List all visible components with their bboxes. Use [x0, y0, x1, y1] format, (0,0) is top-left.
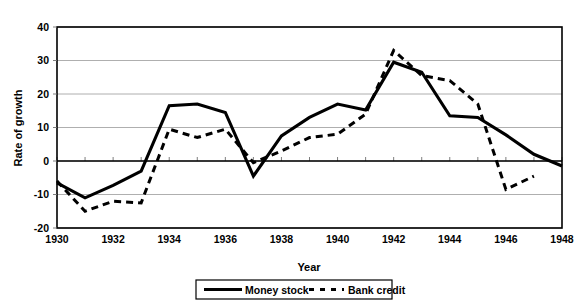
legend-label-bank-credit: Bank credit	[348, 284, 406, 296]
y-tick-label-10: 10	[37, 121, 49, 133]
y-tick-label-30: 30	[37, 54, 49, 66]
y-tick-label-20: 20	[37, 88, 49, 100]
x-tick-label-1934: 1934	[158, 233, 182, 245]
legend-label-money-stock: Money stock	[245, 284, 309, 296]
y-tick-label--20: -20	[34, 222, 49, 234]
x-tick-label-1948: 1948	[550, 233, 574, 245]
x-tick-label-1930: 1930	[45, 233, 69, 245]
x-tick-label-1936: 1936	[214, 233, 238, 245]
chart-background	[0, 0, 577, 303]
x-tick-label-1942: 1942	[382, 233, 406, 245]
chart-figure: 403020100-10-20 193019321934193619381940…	[0, 0, 577, 303]
rate-of-growth-line-chart: 403020100-10-20 193019321934193619381940…	[0, 0, 577, 303]
y-tick-label-40: 40	[37, 21, 49, 33]
y-tick-label--10: -10	[34, 188, 49, 200]
x-tick-label-1932: 1932	[101, 233, 125, 245]
y-axis-title: Rate of growth	[12, 89, 24, 166]
x-tick-label-1944: 1944	[438, 233, 462, 245]
x-tick-label-1946: 1946	[494, 233, 518, 245]
x-tick-label-1940: 1940	[326, 233, 350, 245]
x-axis-title: Year	[297, 261, 321, 273]
x-tick-label-1938: 1938	[270, 233, 294, 245]
y-tick-label-0: 0	[43, 155, 49, 167]
